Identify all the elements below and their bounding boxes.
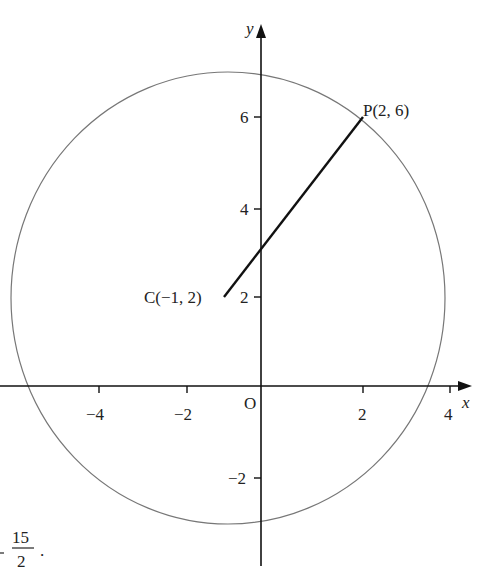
y-axis-label: y	[244, 19, 254, 38]
x-tick-label: 2	[358, 405, 367, 424]
y-tick-label: 4	[240, 200, 249, 219]
origin-label: O	[244, 394, 256, 413]
x-tick-label: −2	[174, 405, 192, 424]
y-tick-label: −2	[228, 469, 246, 488]
point-c-label: C(−1, 2)	[144, 288, 202, 307]
x-axis-arrow-icon	[458, 381, 472, 391]
trailing-period: .	[40, 541, 44, 560]
x-axis-label: x	[461, 393, 470, 412]
circle	[11, 72, 445, 524]
y-tick-label: 6	[240, 108, 249, 127]
y-tick-label: 2	[240, 288, 249, 307]
y-axis-arrow-icon	[256, 24, 266, 38]
x-tick-label: −4	[86, 405, 105, 424]
circle-diagram: y x O −4 −2 2 4 6 4 2 −2 C(−1, 2) P(2, 6…	[0, 0, 486, 577]
point-p-label: P(2, 6)	[363, 101, 409, 120]
fraction-numerator: 15	[12, 528, 29, 547]
fraction-denominator: 2	[17, 552, 26, 571]
x-tick-label: 4	[444, 405, 453, 424]
